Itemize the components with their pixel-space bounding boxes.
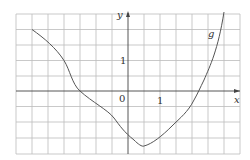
- axes: [16, 13, 240, 154]
- origin-label: 0: [119, 94, 125, 104]
- x-tick-label: 1: [157, 96, 163, 106]
- x-axis-arrow-icon: [234, 89, 240, 93]
- chart-canvas: [0, 0, 250, 160]
- y-tick-label: 1: [120, 56, 126, 66]
- curve-label-g: g: [208, 29, 214, 39]
- y-axis-label: y: [117, 10, 123, 20]
- x-axis-label: x: [234, 95, 240, 105]
